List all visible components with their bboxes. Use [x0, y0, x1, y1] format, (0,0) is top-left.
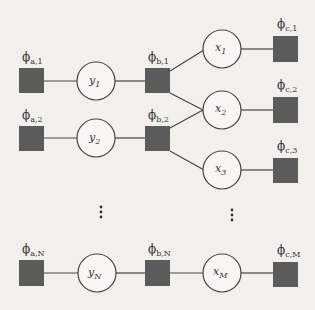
factor-phi-aN [19, 260, 44, 286]
label-phi-aN: ϕa,N [22, 242, 45, 258]
factor-phi-c1 [273, 36, 298, 62]
factor-phi-c2 [273, 97, 298, 123]
label-phi-cM: ϕc,M [277, 243, 300, 259]
factor-graph: ϕa,1 ϕa,2 ϕa,N ϕb,1 ϕb,2 ϕb,N ϕc,1 ϕc,2 … [0, 0, 315, 310]
label-phi-a2: ϕa,2 [22, 108, 43, 124]
edge-phi_b1-x1 [170, 50, 204, 71]
vertical-ellipsis-right [231, 209, 234, 222]
label-phi-bN: ϕb,N [148, 242, 171, 258]
factor-phi-b2 [145, 126, 170, 151]
factor-phi-a1 [19, 68, 44, 93]
edge-phi_b2-x3 [170, 151, 204, 170]
label-phi-c3: ϕc,3 [277, 139, 297, 155]
factor-phi-bN [145, 260, 170, 286]
factor-phi-cM [273, 262, 298, 287]
edge-phi_b1-x2 [170, 93, 203, 110]
factor-phi-a2 [19, 126, 44, 151]
label-phi-a1: ϕa,1 [22, 50, 43, 66]
label-phi-b2: ϕb,2 [148, 108, 169, 124]
edge-phi_b2-x2 [170, 110, 203, 128]
vertical-ellipsis-left [100, 206, 103, 219]
label-phi-c1: ϕc,1 [277, 17, 297, 33]
label-phi-b1: ϕb,1 [148, 50, 169, 66]
label-phi-c2: ϕc,2 [277, 78, 297, 94]
factor-phi-b1 [145, 68, 170, 93]
factor-phi-c3 [273, 158, 298, 183]
